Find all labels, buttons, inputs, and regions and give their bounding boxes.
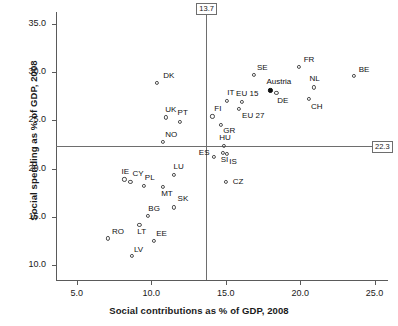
data-point[interactable] xyxy=(172,172,176,176)
data-point[interactable] xyxy=(142,184,146,188)
data-point[interactable] xyxy=(224,180,228,184)
data-point-label: UK xyxy=(165,105,176,114)
y-tick-label: 25.0 xyxy=(28,114,46,124)
plot-area: 10.015.020.025.030.035.0 5.010.015.020.0… xyxy=(56,12,388,280)
x-tick-label: 5.0 xyxy=(71,288,84,298)
data-point[interactable] xyxy=(164,115,168,119)
x-tick xyxy=(77,280,78,285)
data-point[interactable] xyxy=(252,73,256,77)
data-point-label: SK xyxy=(178,194,189,203)
y-tick: 30.0 xyxy=(52,72,57,73)
data-point-label: IS xyxy=(229,157,237,166)
y-tick-label: 15.0 xyxy=(28,211,46,221)
data-point-label: CH xyxy=(311,102,323,111)
data-point-label: DK xyxy=(163,71,174,80)
data-point[interactable] xyxy=(130,254,134,258)
scatter-chart-figure: Social spending as % of GDP, 2008 Social… xyxy=(0,0,398,326)
horizontal-reference-line-label: 22.3 xyxy=(372,141,393,153)
x-tick-label: 10.0 xyxy=(143,288,161,298)
data-point-label: ES xyxy=(199,148,210,157)
y-tick: 20.0 xyxy=(52,169,57,170)
data-point-label: LV xyxy=(134,245,143,254)
data-point-label: FI xyxy=(214,104,221,113)
data-point[interactable] xyxy=(240,100,244,104)
data-point[interactable] xyxy=(210,114,214,118)
data-point[interactable] xyxy=(172,205,176,209)
data-point[interactable] xyxy=(268,88,272,92)
data-point[interactable] xyxy=(152,239,156,243)
data-point-label: NO xyxy=(165,130,177,139)
data-point[interactable] xyxy=(212,155,216,159)
data-point[interactable] xyxy=(155,81,159,85)
data-point-label: Austria xyxy=(266,77,291,86)
y-tick: 10.0 xyxy=(52,265,57,266)
data-point-label: MT xyxy=(161,189,173,198)
data-point-label: DE xyxy=(277,96,288,105)
data-point[interactable] xyxy=(128,180,132,184)
data-point-label: HU xyxy=(219,133,231,142)
data-point-label: PT xyxy=(178,108,188,117)
data-point-label: NL xyxy=(310,74,320,83)
y-tick-label: 20.0 xyxy=(28,163,46,173)
y-tick: 35.0 xyxy=(52,24,57,25)
data-point[interactable] xyxy=(352,74,356,78)
y-tick-label: 35.0 xyxy=(28,18,46,28)
x-tick-label: 15.0 xyxy=(217,288,235,298)
y-tick-label: 30.0 xyxy=(28,66,46,76)
data-point-label: BG xyxy=(148,204,160,213)
data-point-label: LT xyxy=(137,227,146,236)
x-tick-label: 20.0 xyxy=(291,288,309,298)
data-point-label: SE xyxy=(257,63,268,72)
x-tick-label: 25.0 xyxy=(366,288,384,298)
data-point-label: SI xyxy=(221,155,229,164)
data-point[interactable] xyxy=(297,65,301,69)
data-point-label: EU 27 xyxy=(242,111,264,120)
x-tick xyxy=(151,280,152,285)
data-point[interactable] xyxy=(225,152,229,156)
x-axis-line xyxy=(56,280,388,281)
data-point[interactable] xyxy=(307,97,311,101)
x-axis-title: Social contributions as % of GDP, 2008 xyxy=(0,305,398,316)
x-tick xyxy=(226,280,227,285)
data-point-label: CZ xyxy=(233,177,244,186)
data-point-label: PL xyxy=(145,173,155,182)
data-point[interactable] xyxy=(106,236,110,240)
vertical-reference-line-label: 13.7 xyxy=(196,3,217,15)
y-tick-label: 10.0 xyxy=(28,259,46,269)
data-point-label: BE xyxy=(359,65,370,74)
data-point-label: LU xyxy=(174,162,184,171)
data-point-label: CY xyxy=(132,169,143,178)
data-point[interactable] xyxy=(311,85,315,89)
data-point[interactable] xyxy=(237,107,241,111)
data-point-label: FR xyxy=(304,55,315,64)
data-point[interactable] xyxy=(274,91,278,95)
data-point-label: EE xyxy=(156,229,167,238)
data-point[interactable] xyxy=(122,177,126,181)
data-point-label: RO xyxy=(112,227,124,236)
x-tick xyxy=(300,280,301,285)
y-tick: 15.0 xyxy=(52,217,57,218)
data-point-label: IT xyxy=(227,88,234,97)
horizontal-reference-line xyxy=(56,146,382,147)
data-point-label: EU 15 xyxy=(236,89,258,98)
data-point[interactable] xyxy=(161,140,165,144)
data-point[interactable] xyxy=(146,214,150,218)
data-point[interactable] xyxy=(225,99,229,103)
x-tick xyxy=(375,280,376,285)
data-point[interactable] xyxy=(177,120,181,124)
y-tick: 25.0 xyxy=(52,120,57,121)
data-point-label: IE xyxy=(121,167,129,176)
